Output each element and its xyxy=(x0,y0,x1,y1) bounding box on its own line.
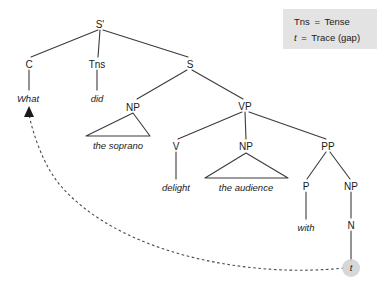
node-np-subject: NP xyxy=(126,102,140,113)
legend-line-tns: Tns = Tense xyxy=(294,16,350,27)
leaf-trace: t xyxy=(350,262,353,273)
node-s: S xyxy=(187,59,194,70)
leaf-the-soprano: the soprano xyxy=(93,140,143,151)
node-tns: Tns xyxy=(89,59,106,70)
node-np-object: NP xyxy=(239,141,253,152)
node-c: C xyxy=(25,59,32,70)
node-pp: PP xyxy=(321,141,335,152)
leaf-with: with xyxy=(298,222,315,233)
node-np-oblique: NP xyxy=(344,181,358,192)
legend-background xyxy=(283,9,377,49)
legend-tns-def: Tense xyxy=(325,16,350,27)
legend-trace-term: t xyxy=(294,32,297,43)
syntax-tree-diagram: S' C Tns S NP VP V NP PP P NP N What did… xyxy=(0,0,379,287)
legend-tns-eq: = xyxy=(314,16,320,27)
legend-panel: Tns = Tense t = Trace (gap) xyxy=(283,9,377,49)
node-n: N xyxy=(347,220,354,231)
node-p: P xyxy=(303,181,310,192)
leaf-did: did xyxy=(91,93,104,104)
leaf-delight: delight xyxy=(162,182,190,193)
legend-line-trace: t = Trace (gap) xyxy=(294,32,360,43)
legend-trace-eq: = xyxy=(301,32,307,43)
node-vp: VP xyxy=(238,101,252,112)
leaf-what: What xyxy=(17,93,40,104)
legend-tns-term: Tns xyxy=(294,16,310,27)
node-v: V xyxy=(173,141,180,152)
node-s-bar: S' xyxy=(96,19,105,30)
legend-trace-def: Trace (gap) xyxy=(311,32,360,43)
leaf-the-audience: the audience xyxy=(219,182,273,193)
